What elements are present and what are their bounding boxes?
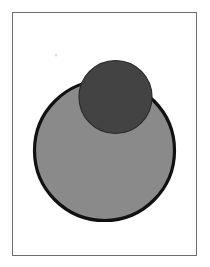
figure-root: Two overlapping circles figure A scanned… [0, 0, 210, 267]
scan-speck-artifact [54, 53, 57, 56]
figure-canvas: Two overlapping circles figure A scanned… [0, 0, 210, 267]
small-dark-circle [79, 61, 152, 134]
